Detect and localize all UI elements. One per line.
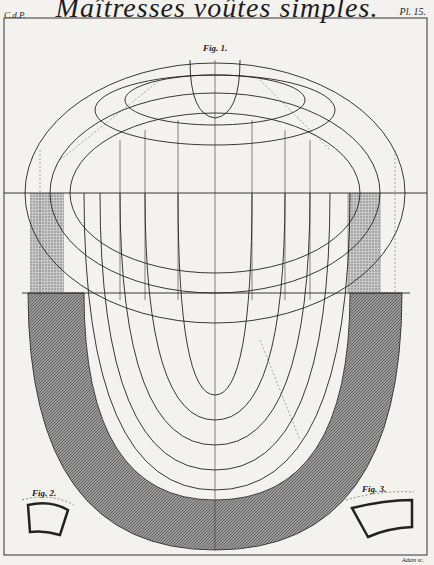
stippled-band-right — [347, 193, 381, 293]
fig3-label: Fig. 3. — [362, 484, 386, 494]
engraving-plate — [0, 0, 434, 565]
fig2-label: Fig. 2. — [32, 488, 56, 498]
engraver-credit: Adam sc. — [402, 557, 424, 563]
fig2-voussoir — [22, 497, 74, 535]
fig3-voussoir — [346, 492, 414, 537]
stippled-band-left — [30, 193, 64, 293]
fig1-label: Fig. 1. — [203, 43, 227, 53]
